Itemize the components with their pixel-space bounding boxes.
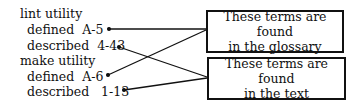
glossary-callout-box: These terms are found in the glossary bbox=[206, 10, 344, 53]
index-subterm-make-defined: defined A-6 bbox=[27, 69, 103, 84]
index-subterm-lint-described: described 4-43 bbox=[27, 38, 125, 53]
index-diagram: lint utility defined A-5 described 4-43 … bbox=[0, 0, 361, 106]
index-subterm-make-described: described 1-13 bbox=[27, 84, 129, 99]
index-term-make-utility: make utility bbox=[20, 53, 95, 68]
text-callout-line2: in the text bbox=[209, 86, 344, 101]
text-callout-line1: These terms are found bbox=[209, 56, 344, 86]
glossary-callout-line2: in the glossary bbox=[208, 39, 342, 54]
index-subterm-lint-defined: defined A-5 bbox=[27, 22, 103, 37]
glossary-callout-line1: These terms are found bbox=[208, 9, 342, 39]
index-term-lint-utility: lint utility bbox=[20, 6, 82, 21]
text-callout-box: These terms are found in the text bbox=[207, 57, 346, 100]
